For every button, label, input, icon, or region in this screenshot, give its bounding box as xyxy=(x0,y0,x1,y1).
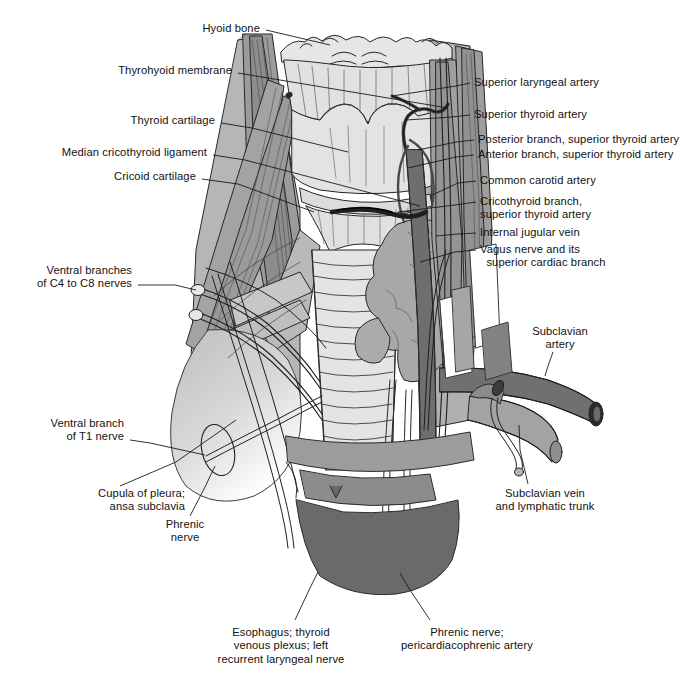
label-ventral-branch-t1: Ventral branch of T1 nerve xyxy=(0,417,124,444)
label-posterior-branch-superior-thyroid-artery: Posterior branch, superior thyroid arter… xyxy=(478,133,679,146)
label-anterior-branch-superior-thyroid-artery: Anterior branch, superior thyroid artery xyxy=(478,148,674,161)
label-vagus-nerve: Vagus nerve and its superior cardiac bra… xyxy=(480,243,606,270)
anatomy-figure: Hyoid boneThyrohyoid membraneThyroid car… xyxy=(0,0,700,678)
label-thyrohyoid-membrane: Thyrohyoid membrane xyxy=(0,64,232,77)
cupula-of-pleura xyxy=(171,330,302,502)
label-ventral-branches-c4-c8: Ventral branches of C4 to C8 nerves xyxy=(0,264,132,291)
label-internal-jugular-vein: Internal jugular vein xyxy=(480,226,580,239)
label-common-carotid-artery: Common carotid artery xyxy=(480,174,596,187)
label-superior-thyroid-artery: Superior thyroid artery xyxy=(474,108,587,121)
label-median-cricothyroid-ligament: Median cricothyroid ligament xyxy=(0,146,207,159)
label-subclavian-artery: Subclavian artery xyxy=(450,325,670,352)
label-cricoid-cartilage: Cricoid cartilage xyxy=(0,170,196,183)
label-cricothyroid-branch: Cricothyroid branch, superior thyroid ar… xyxy=(480,195,591,222)
label-subclavian-vein: Subclavian vein and lymphatic trunk xyxy=(435,487,655,514)
label-superior-laryngeal-artery: Superior laryngeal artery xyxy=(474,76,599,89)
label-phrenic-nerve: Phrenic nerve xyxy=(75,518,295,545)
label-phrenic-nerve-pericardiacophrenic-artery: Phrenic nerve; pericardiacophrenic arter… xyxy=(357,626,577,653)
label-thyroid-cartilage: Thyroid cartilage xyxy=(0,114,215,127)
label-hyoid-bone: Hyoid bone xyxy=(0,22,260,35)
label-cupula-of-pleura: Cupula of pleura; ansa subclavia xyxy=(0,487,185,514)
